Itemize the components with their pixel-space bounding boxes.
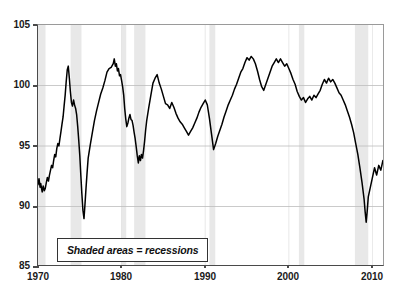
x-axis-tick-label: 1970 bbox=[16, 271, 60, 282]
y-axis-tick-label: 105 bbox=[0, 19, 30, 30]
y-axis-tick-label: 85 bbox=[0, 260, 30, 271]
y-axis-tick-label: 95 bbox=[0, 140, 30, 151]
chart-plot-svg bbox=[38, 25, 384, 266]
recession-band bbox=[122, 25, 127, 266]
recession-band bbox=[38, 25, 46, 266]
y-axis-tick-label: 90 bbox=[0, 200, 30, 211]
recession-shading-group bbox=[38, 25, 368, 266]
legend-annotation-box: Shaded areas = recessions bbox=[57, 238, 208, 262]
chart-container: 105 100 95 90 85 1970 1980 1990 2000 201… bbox=[0, 0, 396, 299]
plot-area bbox=[37, 24, 384, 266]
x-axis-tick-label: 2010 bbox=[350, 271, 394, 282]
x-axis-tick-label: 1980 bbox=[99, 271, 143, 282]
x-axis-tick-label: 2000 bbox=[266, 271, 310, 282]
x-axis-tick-label: 1990 bbox=[183, 271, 227, 282]
recession-band bbox=[355, 25, 368, 266]
legend-annotation-text: Shaded areas = recessions bbox=[67, 244, 198, 256]
recession-band bbox=[299, 25, 304, 266]
y-axis-tick-label: 100 bbox=[0, 79, 30, 90]
